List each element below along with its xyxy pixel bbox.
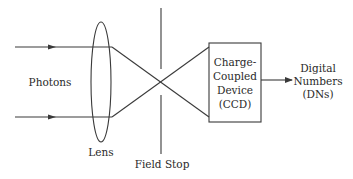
arrow-icon	[48, 45, 56, 50]
dns-label-line-1: Digital	[300, 62, 336, 74]
ccd-box	[209, 43, 261, 122]
ccd-label-line-2: Coupled	[213, 70, 257, 82]
dns-label-line-3: (DNs)	[302, 88, 333, 100]
arrow-icon	[48, 115, 56, 120]
photon-ray-top	[15, 45, 112, 50]
lens-shape	[91, 22, 111, 142]
ccd-label-line-1: Charge-	[214, 56, 257, 68]
ccd-label-line-3: Device	[217, 84, 253, 96]
ccd-label-line-4: (CCD)	[219, 98, 252, 110]
dns-label-line-2: Numbers	[293, 75, 342, 87]
photon-ray-bottom	[15, 115, 112, 120]
photons-label: Photons	[29, 76, 72, 88]
field-stop-label: Field Stop	[135, 158, 190, 170]
optical-diagram: Photons Lens Field Stop Charge- Coupled …	[0, 0, 353, 179]
lens-label: Lens	[88, 146, 113, 158]
